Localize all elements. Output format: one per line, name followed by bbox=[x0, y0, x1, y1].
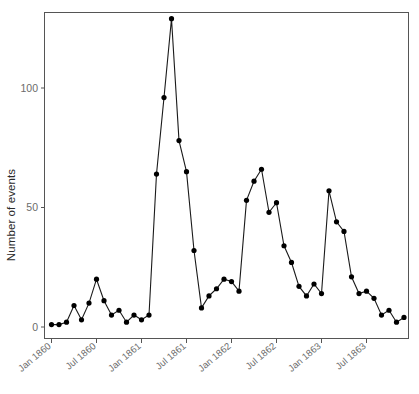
x-tick-label: Jul 1860 bbox=[63, 340, 98, 372]
data-point: Mar 1861: 64 bbox=[154, 171, 159, 176]
data-point: Mar 1863: 44 bbox=[334, 219, 339, 224]
data-point: Dec 1860: 5 bbox=[131, 312, 136, 317]
data-point: Jan 1861: 3 bbox=[139, 317, 144, 322]
chart-figure: Number of events 050100 Jan 1860Jul 1860… bbox=[0, 0, 419, 394]
data-point: Oct 1861: 13 bbox=[206, 293, 211, 298]
data-point: Jun 1860: 10 bbox=[86, 301, 91, 306]
data-point: Mar 1862: 53 bbox=[244, 198, 249, 203]
x-tick-label: Jan 1862 bbox=[196, 340, 233, 374]
data-point: Feb 1862: 15 bbox=[236, 289, 241, 294]
data-point: Nov 1860: 2 bbox=[124, 320, 129, 325]
x-axis-ticks: Jan 1860Jul 1860Jan 1861Jul 1861Jan 1862… bbox=[16, 338, 368, 374]
data-point: Aug 1861: 32 bbox=[191, 248, 196, 253]
data-point: Aug 1863: 12 bbox=[371, 296, 376, 301]
data-point: Feb 1860: 1 bbox=[56, 322, 61, 327]
x-tick-label: Jul 1861 bbox=[153, 340, 188, 372]
data-point: Nov 1863: 2 bbox=[394, 320, 399, 325]
data-point: Apr 1862: 61 bbox=[251, 179, 256, 184]
data-point: Aug 1860: 11 bbox=[101, 298, 106, 303]
data-point: Sep 1860: 5 bbox=[109, 312, 114, 317]
line-chart-plot: 050100 Jan 1860Jul 1860Jan 1861Jul 1861J… bbox=[0, 0, 419, 394]
data-point: Jul 1860: 20 bbox=[94, 277, 99, 282]
data-point: Dec 1863: 4 bbox=[401, 315, 406, 320]
y-tick-label: 50 bbox=[26, 201, 38, 213]
data-point: Jul 1862: 52 bbox=[274, 200, 279, 205]
x-tick-label: Jan 1860 bbox=[16, 340, 53, 374]
data-point: Jan 1862: 19 bbox=[229, 279, 234, 284]
data-point: Jan 1860: 1 bbox=[49, 322, 54, 327]
plot-border bbox=[45, 13, 409, 339]
data-point: May 1860: 3 bbox=[79, 317, 84, 322]
data-point: Sep 1863: 5 bbox=[379, 312, 384, 317]
x-tick-label: Jan 1861 bbox=[106, 340, 143, 374]
x-tick-label: Jul 1862 bbox=[243, 340, 278, 372]
data-point: Apr 1861: 96 bbox=[161, 95, 166, 100]
data-point: Apr 1863: 40 bbox=[341, 229, 346, 234]
data-point: Jan 1863: 14 bbox=[319, 291, 324, 296]
x-tick-label: Jul 1863 bbox=[333, 340, 368, 372]
y-tick-label: 100 bbox=[20, 82, 38, 94]
data-point: Dec 1861: 20 bbox=[221, 277, 226, 282]
data-point: Nov 1861: 16 bbox=[214, 286, 219, 291]
data-point: Nov 1862: 13 bbox=[304, 293, 309, 298]
data-point: Apr 1860: 9 bbox=[71, 303, 76, 308]
data-point: Sep 1861: 8 bbox=[199, 305, 204, 310]
data-point: Aug 1862: 34 bbox=[281, 243, 286, 248]
data-point: Jul 1863: 15 bbox=[364, 289, 369, 294]
data-point: Feb 1861: 5 bbox=[146, 312, 151, 317]
data-point: Oct 1860: 7 bbox=[116, 308, 121, 313]
data-point: Feb 1863: 57 bbox=[326, 188, 331, 193]
data-point: May 1861: 129 bbox=[169, 16, 174, 21]
data-point: Jun 1863: 14 bbox=[356, 291, 361, 296]
y-axis-ticks: 050100 bbox=[20, 82, 45, 333]
data-point: May 1862: 66 bbox=[259, 167, 264, 172]
data-point: Mar 1860: 2 bbox=[64, 320, 69, 325]
data-point: May 1863: 21 bbox=[349, 274, 354, 279]
data-point: Oct 1863: 7 bbox=[386, 308, 391, 313]
data-point: Jun 1862: 48 bbox=[266, 210, 271, 215]
x-tick-label: Jan 1863 bbox=[286, 340, 323, 374]
data-point: Jul 1861: 65 bbox=[184, 169, 189, 174]
data-point: Oct 1862: 17 bbox=[296, 284, 301, 289]
data-point: Jun 1861: 78 bbox=[176, 138, 181, 143]
y-tick-label: 0 bbox=[32, 321, 38, 333]
data-point: Sep 1862: 27 bbox=[289, 260, 294, 265]
data-point: Dec 1862: 18 bbox=[311, 281, 316, 286]
